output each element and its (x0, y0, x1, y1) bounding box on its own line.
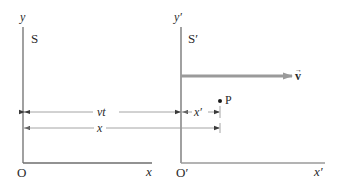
x-prime-dimension-label: x′ (193, 105, 202, 119)
frame-s-label: S (31, 31, 38, 46)
point-p-dot (218, 99, 222, 103)
velocity-vector-mark: → (295, 66, 302, 74)
vt-label: vt (97, 105, 106, 119)
point-p-label: P (225, 93, 232, 107)
frame-s-prime-label: S′ (188, 31, 198, 46)
origin-o-prime-label: O′ (176, 165, 188, 180)
frame-s-prime-axes (181, 27, 325, 163)
galilean-transformation-diagram: y S O x y′ S′ O′ x′ v → vt x′ x P (0, 0, 337, 188)
origin-o-label: O (17, 165, 26, 180)
x-dimension-label: x (96, 121, 103, 135)
y-prime-axis-label: y′ (173, 10, 182, 24)
frame-s-axes (23, 27, 152, 163)
vt-left-arrowhead (24, 110, 30, 114)
x-prime-axis-label: x′ (313, 164, 323, 179)
y-axis-label: y (19, 10, 26, 24)
x-axis-label: x (145, 164, 152, 179)
x-dimension (24, 123, 220, 133)
